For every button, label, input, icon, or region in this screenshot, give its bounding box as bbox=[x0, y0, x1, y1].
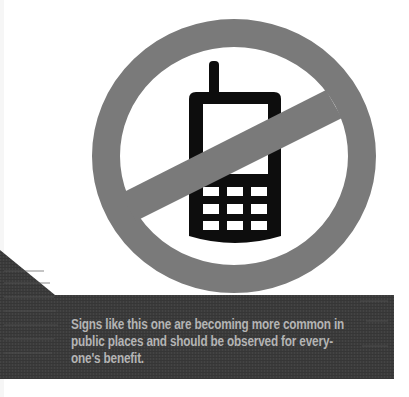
caption-line-2: public places and should be observed for… bbox=[71, 333, 348, 350]
document-page: Signs like this one are becoming more co… bbox=[0, 0, 409, 397]
caption-line-1: Signs like this one are becoming more co… bbox=[71, 316, 348, 333]
caption-line-3: one's benefit. bbox=[71, 350, 348, 367]
caption-text: Signs like this one are becoming more co… bbox=[71, 316, 348, 367]
keypad bbox=[203, 187, 267, 230]
